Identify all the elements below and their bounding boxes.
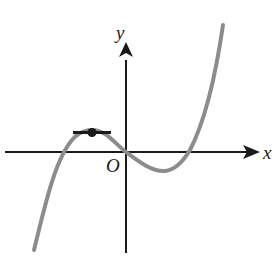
cubic-curve [34, 25, 223, 250]
function-graph-diagram: y x O [0, 0, 272, 262]
y-axis-arrow-icon [119, 42, 133, 57]
y-axis-label: y [116, 23, 124, 42]
origin-label: O [106, 156, 120, 175]
graph-canvas [0, 0, 272, 262]
x-axis-label: x [263, 143, 271, 162]
local-maximum-point [88, 128, 97, 137]
